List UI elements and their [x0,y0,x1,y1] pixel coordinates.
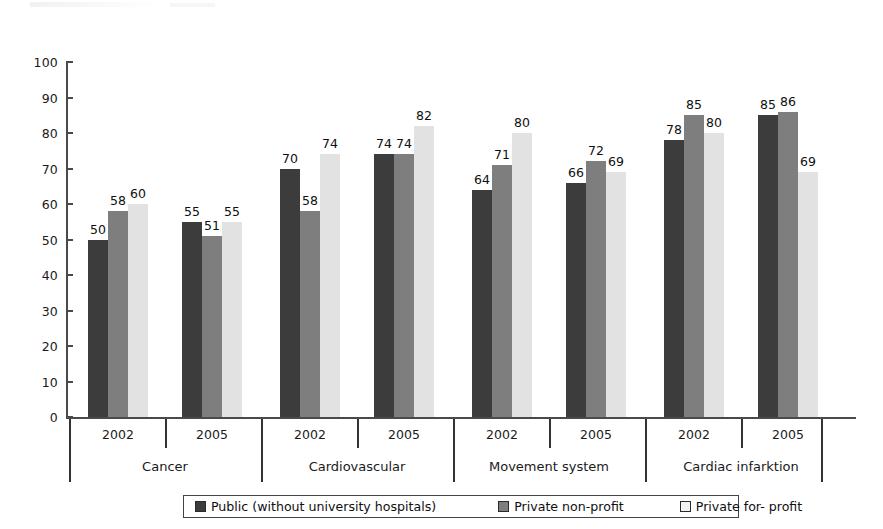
x-axis-year-separator [549,419,551,448]
y-tick-mark [66,132,73,134]
bar [88,240,108,418]
x-axis-year-label: 2002 [659,427,729,442]
bar-value-label: 80 [502,115,542,130]
bar [182,222,202,417]
bar-value-label: 80 [694,115,734,130]
x-axis-year-label: 2005 [561,427,631,442]
bar [202,236,222,417]
bar [704,133,724,417]
bar-value-label: 86 [768,94,808,109]
legend-item-private-non-profit[interactable]: Private non-profit [498,499,624,514]
y-tick-label: 50 [22,232,58,247]
y-tick-mark [66,168,73,170]
y-tick-label: 90 [22,90,58,105]
x-axis-line [66,417,856,419]
y-tick-label: 10 [22,374,58,389]
x-axis-group-separator [453,419,455,482]
x-axis-year-label: 2005 [753,427,823,442]
y-tick-label: 100 [22,55,58,70]
bar-value-label: 74 [310,136,350,151]
bar [128,204,148,417]
x-axis-year-label: 2005 [369,427,439,442]
y-tick-label: 70 [22,161,58,176]
bar [684,115,704,417]
x-axis-group-separator [821,419,823,482]
legend-item-private-for-profit[interactable]: Private for- profit [680,499,802,514]
legend-swatch-private-non-profit [498,501,509,512]
y-tick-label: 30 [22,303,58,318]
y-tick-mark [66,61,73,63]
y-tick-mark [66,274,73,276]
bar-value-label: 69 [596,154,636,169]
y-tick-label: 60 [22,197,58,212]
bar [566,183,586,417]
x-axis-year-label: 2002 [467,427,537,442]
bar [492,165,512,417]
bar [374,154,394,417]
x-axis-group-label: Cancer [65,459,265,474]
bar-value-label: 55 [212,204,252,219]
y-tick-mark [66,416,73,418]
bar [414,126,434,417]
bar-value-label: 69 [788,154,828,169]
chart-legend: Public (without university hospitals) Pr… [183,495,739,518]
bar [108,211,128,417]
bar [320,154,340,417]
x-axis-group-separator [69,419,71,482]
x-axis-year-separator [357,419,359,448]
bar [606,172,626,417]
bar-value-label: 82 [404,108,444,123]
bar [300,211,320,417]
y-tick-label: 40 [22,268,58,283]
scan-artifact [30,2,160,7]
bar-value-label: 55 [172,204,212,219]
bar [222,222,242,417]
y-tick-mark [66,381,73,383]
y-tick-label: 0 [22,410,58,425]
y-tick-mark [66,97,73,99]
bar [394,154,414,417]
x-axis-year-separator [165,419,167,448]
scan-artifact-secondary [170,3,215,7]
bar-value-label: 60 [118,186,158,201]
bar [586,161,606,417]
y-tick-mark [66,203,73,205]
legend-label-private-for-profit: Private for- profit [696,499,802,514]
bar [664,140,684,417]
x-axis-group-label: Cardiac infarktion [641,459,841,474]
y-tick-mark [66,310,73,312]
y-tick-mark [66,345,73,347]
legend-swatch-private-for-profit [680,501,691,512]
legend-item-public[interactable]: Public (without university hospitals) [195,499,436,514]
bar [798,172,818,417]
x-axis-group-separator [645,419,647,482]
legend-label-public: Public (without university hospitals) [211,499,436,514]
y-tick-label: 20 [22,339,58,354]
legend-swatch-public [195,501,206,512]
x-axis-group-label: Movement system [449,459,649,474]
x-axis-year-label: 2002 [83,427,153,442]
x-axis-group-label: Cardiovascular [257,459,457,474]
legend-label-private-non-profit: Private non-profit [514,499,624,514]
bar-chart: 0102030405060708090100 50586055515570587… [0,0,883,529]
x-axis-group-separator [261,419,263,482]
bar [758,115,778,417]
y-tick-label: 80 [22,126,58,141]
x-axis-year-label: 2005 [177,427,247,442]
bar [512,133,532,417]
y-tick-mark [66,239,73,241]
x-axis-year-separator [741,419,743,448]
x-axis-year-label: 2002 [275,427,345,442]
bar-value-label: 85 [674,97,714,112]
bar-value-label: 70 [270,151,310,166]
bar [472,190,492,417]
